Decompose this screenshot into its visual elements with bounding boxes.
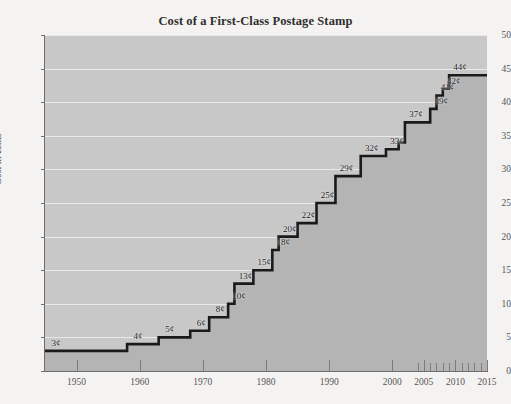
x-minor-tick-mark: [462, 363, 463, 371]
x-tick-mark: [487, 360, 488, 371]
y-tick-label: 40: [471, 97, 511, 107]
x-minor-tick-mark: [430, 363, 431, 371]
data-point-label: 18¢: [277, 237, 291, 247]
data-point-label: 20¢: [283, 224, 297, 234]
y-tick-label: 30: [471, 164, 511, 174]
y-tick-label: 25: [471, 198, 511, 208]
y-tick-mark: [41, 69, 45, 70]
x-tick-label: 1990: [320, 377, 339, 387]
data-point-label: 29¢: [340, 163, 354, 173]
x-tick-label: 2000: [383, 377, 402, 387]
x-minor-tick-mark: [468, 363, 469, 371]
x-minor-tick-mark: [449, 363, 450, 371]
step-series-svg: [45, 35, 487, 371]
y-tick-mark: [41, 169, 45, 170]
data-point-label: 33¢: [390, 136, 404, 146]
data-point-label: 15¢: [258, 257, 272, 267]
x-tick-label: 2005: [414, 377, 433, 387]
data-point-label: 22¢: [302, 210, 316, 220]
y-tick-label: 20: [471, 232, 511, 242]
y-tick-label: 10: [471, 299, 511, 309]
y-tick-label: 50: [471, 30, 511, 40]
data-point-label: 25¢: [321, 190, 335, 200]
chart-title: Cost of a First-Class Postage Stamp: [0, 14, 511, 29]
x-tick-label: 1950: [67, 377, 86, 387]
data-point-label: 6¢: [197, 318, 206, 328]
y-tick-mark: [41, 371, 45, 372]
x-minor-tick-mark: [436, 363, 437, 371]
x-axis-line: [44, 371, 488, 372]
y-tick-label: 45: [471, 64, 511, 74]
x-tick-mark: [77, 360, 78, 371]
x-tick-mark: [140, 360, 141, 371]
data-point-label: 4¢: [134, 331, 143, 341]
x-tick-label: 1970: [193, 377, 212, 387]
x-tick-mark: [392, 360, 393, 371]
y-tick-label: 0: [471, 366, 511, 376]
x-minor-tick-mark: [481, 363, 482, 371]
y-tick-label: 15: [471, 265, 511, 275]
x-tick-label: 1980: [257, 377, 276, 387]
x-minor-tick-mark: [418, 363, 419, 371]
postage-stamp-cost-chart: Cost of a First-Class Postage Stamp 0510…: [0, 0, 511, 404]
y-tick-mark: [41, 270, 45, 271]
data-point-label: 32¢: [365, 143, 379, 153]
area-fill-path: [45, 75, 487, 371]
data-point-label: 39¢: [434, 96, 448, 106]
data-point-label: 3¢: [52, 338, 61, 348]
x-tick-mark: [329, 360, 330, 371]
y-tick-mark: [41, 304, 45, 305]
x-minor-tick-mark: [474, 363, 475, 371]
y-axis-title: Cost in cents: [0, 133, 3, 185]
y-tick-mark: [41, 35, 45, 36]
x-tick-label: 2010: [446, 377, 465, 387]
x-minor-tick-mark: [443, 363, 444, 371]
x-tick-mark: [455, 360, 456, 371]
data-point-label: 44¢: [453, 62, 467, 72]
data-point-label: 42¢: [447, 76, 461, 86]
y-tick-mark: [41, 102, 45, 103]
x-tick-label: 2015: [478, 377, 497, 387]
data-point-label: 5¢: [165, 324, 174, 334]
y-tick-mark: [41, 337, 45, 338]
plot-area: [45, 35, 487, 371]
y-tick-mark: [41, 237, 45, 238]
y-tick-label: 35: [471, 131, 511, 141]
x-tick-mark: [203, 360, 204, 371]
data-point-label: 10¢: [232, 291, 246, 301]
y-tick-mark: [41, 203, 45, 204]
x-tick-mark: [424, 360, 425, 371]
data-point-label: 13¢: [239, 271, 253, 281]
y-tick-mark: [41, 136, 45, 137]
data-point-label: 37¢: [409, 109, 423, 119]
x-tick-label: 1960: [130, 377, 149, 387]
x-tick-mark: [266, 360, 267, 371]
y-tick-label: 5: [471, 332, 511, 342]
data-point-label: 8¢: [216, 304, 225, 314]
